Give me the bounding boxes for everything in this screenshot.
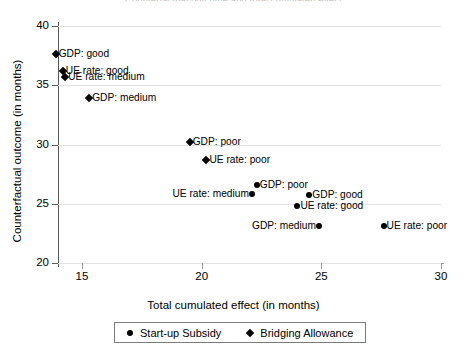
circle-marker-icon: [127, 330, 133, 336]
data-point-label: GDP: poor: [260, 180, 308, 190]
data-point[interactable]: GDP: poor: [187, 139, 193, 145]
data-point-label: GDP: poor: [193, 137, 241, 147]
x-axis-tick: [441, 263, 442, 269]
data-point-label: UE rate: medium: [68, 72, 144, 82]
legend-item[interactable]: Start-up Subsidy: [127, 327, 221, 339]
data-point-label: GDP: medium: [252, 221, 316, 231]
y-axis-tick-label: 30: [36, 139, 49, 151]
data-point-label: UE rate: good: [300, 201, 363, 211]
chart-legend: Start-up SubsidyBridging Allowance: [114, 322, 366, 343]
data-point[interactable]: GDP: good: [306, 192, 312, 198]
data-point-label: UE rate: medium: [172, 189, 248, 199]
plot-area: 202530354015202530GDP: poorUE rate: medi…: [58, 26, 441, 263]
legend-item[interactable]: Bridging Allowance: [247, 327, 353, 339]
y-gridline: [58, 26, 441, 27]
x-axis-tick-label: 15: [76, 271, 89, 283]
data-point[interactable]: UE rate: poor: [203, 157, 209, 163]
x-axis-tick-label: 20: [195, 271, 208, 283]
y-axis-tick-label: 25: [36, 198, 49, 210]
y-gridline: [58, 85, 441, 86]
x-axis-title: Total cumulated effect (in months): [0, 299, 467, 311]
y-gridline: [58, 204, 441, 205]
y-gridline: [58, 145, 441, 146]
x-axis-tick-label: 25: [315, 271, 328, 283]
y-axis-tick: [52, 263, 58, 264]
data-point-label: GDP: medium: [92, 93, 156, 103]
data-point[interactable]: UE rate: medium: [62, 74, 68, 80]
data-point[interactable]: GDP: medium: [86, 95, 92, 101]
data-point[interactable]: GDP: poor: [254, 182, 260, 188]
scatter-chart: Counterfactual outcome and total cumulat…: [0, 0, 467, 350]
data-point[interactable]: UE rate: good: [294, 203, 300, 209]
diamond-marker-icon: [246, 328, 254, 336]
data-point[interactable]: UE rate: poor: [381, 223, 387, 229]
data-point-label: GDP: good: [59, 49, 109, 59]
y-axis-tick-label: 40: [36, 20, 49, 32]
data-point-label: UE rate: poor: [209, 155, 270, 165]
y-axis-tick: [52, 26, 58, 27]
x-axis-tick-label: 30: [435, 271, 448, 283]
legend-item-label: Start-up Subsidy: [140, 327, 221, 339]
circle-marker-icon: [316, 223, 322, 229]
y-axis-tick: [52, 85, 58, 86]
legend-item-label: Bridging Allowance: [260, 327, 353, 339]
data-point[interactable]: UE rate: medium: [249, 191, 255, 197]
y-axis-tick-label: 35: [36, 80, 49, 92]
y-axis-tick-label: 20: [36, 257, 49, 269]
x-axis-tick: [321, 263, 322, 269]
y-gridline: [58, 263, 441, 264]
y-axis-tick: [52, 204, 58, 205]
data-point[interactable]: GDP: medium: [316, 223, 322, 229]
chart-title: Counterfactual outcome and total cumulat…: [0, 0, 467, 1]
data-point-label: UE rate: poor: [387, 221, 448, 231]
data-point[interactable]: GDP: good: [53, 51, 59, 57]
x-axis-tick: [202, 263, 203, 269]
x-axis-tick: [82, 263, 83, 269]
y-axis-title: Counterfactual outcome (in months): [11, 41, 23, 261]
circle-marker-icon: [249, 191, 255, 197]
y-axis-tick: [52, 145, 58, 146]
